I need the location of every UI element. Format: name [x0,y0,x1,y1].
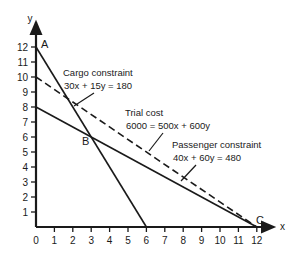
svg-text:12: 12 [17,42,29,53]
origin-label: 0 [33,235,39,246]
svg-text:1: 1 [22,207,28,218]
passenger-pointer-line [181,165,196,181]
svg-text:9: 9 [199,235,205,246]
svg-text:12: 12 [251,235,263,246]
svg-text:7: 7 [162,235,168,246]
passenger-constraint-title: Passenger constraint [172,139,262,150]
cargo-pointer-line [74,93,94,106]
y-tick-labels: 1 2 3 4 5 6 7 8 9 10 11 12 [17,42,29,218]
svg-text:3: 3 [22,177,28,188]
svg-text:10: 10 [214,235,226,246]
svg-text:7: 7 [22,117,28,128]
trial-cost-pointer-line [149,133,163,151]
passenger-constraint-annotation: Passenger constraint 40x + 60y = 480 [172,139,262,181]
point-b-label: B [82,135,89,147]
svg-text:10: 10 [17,72,29,83]
svg-text:5: 5 [125,235,131,246]
y-axis-label: y [28,13,33,24]
svg-text:5: 5 [22,147,28,158]
svg-text:8: 8 [22,102,28,113]
svg-text:4: 4 [22,162,28,173]
svg-text:8: 8 [180,235,186,246]
x-tick-labels: 1 2 3 4 5 6 7 8 9 10 11 12 [52,235,263,246]
trial-cost-title: Trial cost [125,107,164,118]
cargo-constraint-title: Cargo constraint [63,67,133,78]
svg-text:4: 4 [107,235,113,246]
svg-text:3: 3 [88,235,94,246]
svg-text:11: 11 [233,235,244,246]
cargo-constraint-annotation: Cargo constraint 30x + 15y = 180 [63,67,133,106]
svg-text:2: 2 [22,192,28,203]
svg-text:9: 9 [22,87,28,98]
passenger-constraint-equation: 40x + 60y = 480 [173,152,241,163]
point-a-label: A [41,38,49,50]
point-c-label: C [256,214,264,226]
svg-text:6: 6 [22,132,28,143]
svg-text:11: 11 [18,57,29,68]
diagram-canvas: y x 0 1 2 3 4 5 6 7 8 9 10 11 12 1 2 3 4… [0,0,298,257]
svg-text:2: 2 [70,235,76,246]
svg-text:1: 1 [52,235,58,246]
x-axis-label: x [280,221,285,232]
svg-text:6: 6 [144,235,150,246]
cargo-constraint-equation: 30x + 15y = 180 [64,80,132,91]
trial-cost-equation: 6000 = 500x + 600y [126,120,210,131]
